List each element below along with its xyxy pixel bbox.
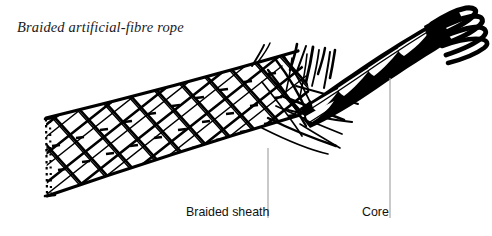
figure-title: Braided artificial-fibre rope [17, 19, 184, 36]
callout-label-core: Core [362, 205, 389, 219]
callout-label-braided-sheath: Braided sheath [186, 205, 269, 219]
figure-braided-rope: Braided artificial-fibre rope Braided sh… [0, 0, 492, 236]
sheath-cut-end [46, 119, 51, 195]
